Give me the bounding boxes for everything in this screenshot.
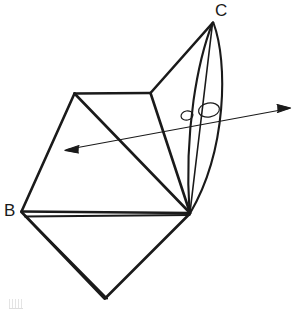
geometric-solid-drawing (0, 0, 293, 309)
axis-arrowhead-right-fill (277, 104, 291, 112)
prism-front-face (22, 93, 191, 213)
scan-artifact-smudge (9, 299, 23, 309)
edge-top (75, 93, 151, 94)
axis-shaft (67, 109, 289, 150)
edge-top-left-to-B (22, 94, 75, 212)
edge-top-right-to-C (151, 23, 214, 94)
upper-face-to-apex (151, 23, 214, 94)
lower-triangular-flap (22, 212, 191, 299)
curved-lens-surface (188, 23, 222, 213)
lens-chord (190, 24, 213, 213)
figure-canvas: C B (0, 0, 293, 309)
edge-B-to-bottom-double (26, 217, 107, 299)
edge-B-to-right (22, 212, 191, 214)
vertex-label-c: C (215, 2, 227, 19)
edge-bottom-to-right (105, 214, 190, 299)
axis-pierce-loops (180, 101, 220, 121)
rotation-axis-arrow (65, 104, 292, 153)
vertex-label-b: B (4, 202, 15, 219)
lens-arc-right (191, 23, 223, 213)
edge-diagonal (75, 94, 191, 214)
edge-B-to-right-double (25, 215, 190, 217)
